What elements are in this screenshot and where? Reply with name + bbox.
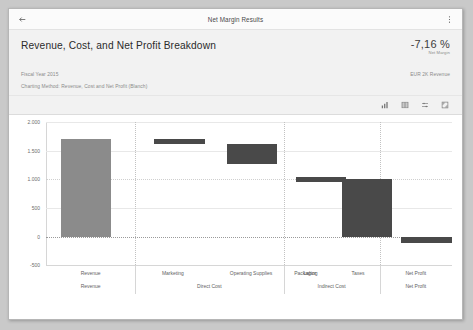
x-group-indirect-cost: Indirect Cost bbox=[284, 279, 380, 293]
y-tick-1000: 1.000 bbox=[27, 176, 40, 182]
unit-label: EUR 2K Revenue bbox=[410, 72, 450, 77]
x-label-net-profit: Net Profit bbox=[380, 266, 452, 280]
bar-taxes[interactable] bbox=[342, 179, 393, 236]
x-axis-level-2: Revenue Direct Cost Indirect Cost Net Pr… bbox=[46, 279, 452, 293]
y-tick--500: -500 bbox=[30, 262, 40, 268]
app-window: Net Margin Results Revenue, Cost, and Ne… bbox=[8, 8, 463, 320]
chart-grid bbox=[46, 122, 452, 265]
y-axis: 2.000 1.500 1.000 500 0 -500 bbox=[17, 122, 43, 265]
x-label-taxes: Taxes bbox=[336, 266, 379, 280]
x-label-marketing: Marketing bbox=[135, 266, 210, 280]
gridline-2000 bbox=[46, 122, 452, 123]
settings-icon[interactable] bbox=[420, 100, 429, 109]
chart-header: Revenue, Cost, and Net Profit Breakdown … bbox=[9, 30, 462, 96]
y-tick-2000: 2.000 bbox=[27, 119, 40, 125]
navigation-bar: Net Margin Results bbox=[9, 9, 462, 30]
group-separator-1 bbox=[135, 122, 136, 265]
x-group-direct-cost: Direct Cost bbox=[135, 279, 283, 293]
x-group-net-profit: Net Profit bbox=[380, 279, 452, 293]
fiscal-year-label: Fiscal Year 2015 bbox=[21, 72, 58, 77]
y-tick-500: 500 bbox=[32, 205, 40, 211]
bar-chart-icon[interactable] bbox=[380, 100, 389, 109]
kpi-label: Net Margin bbox=[411, 51, 450, 55]
kpi-net-margin: -7,16 % Net Margin bbox=[411, 39, 450, 55]
bar-marketing[interactable] bbox=[154, 139, 205, 144]
bar-labor[interactable] bbox=[296, 177, 347, 182]
x-axis: Revenue Marketing Operating Supplies Pac… bbox=[46, 265, 452, 294]
y-tick-0: 0 bbox=[37, 234, 40, 240]
bar-operating-supplies[interactable] bbox=[227, 144, 278, 164]
x-label-revenue: Revenue bbox=[46, 266, 135, 280]
back-arrow-icon[interactable] bbox=[15, 12, 29, 26]
page-title: Net Margin Results bbox=[9, 16, 462, 23]
chart-title: Revenue, Cost, and Net Profit Breakdown bbox=[21, 39, 216, 52]
bar-net-profit[interactable] bbox=[401, 237, 452, 244]
overflow-menu-icon[interactable] bbox=[442, 12, 456, 26]
x-label-labor: Labor bbox=[284, 266, 337, 280]
table-icon[interactable] bbox=[400, 100, 409, 109]
x-axis-level-1: Revenue Marketing Operating Supplies Pac… bbox=[46, 266, 452, 280]
group-separator-2 bbox=[284, 122, 285, 265]
chart-plot-area: 2.000 1.500 1.000 500 0 -500 bbox=[9, 115, 462, 319]
x-group-revenue: Revenue bbox=[46, 279, 135, 293]
kpi-value: -7,16 % bbox=[411, 39, 450, 50]
y-tick-1500: 1.500 bbox=[27, 148, 40, 154]
fullscreen-icon[interactable] bbox=[440, 100, 449, 109]
gridline-zero bbox=[46, 237, 452, 238]
chart-subtitles: Fiscal Year 2015 Charting Method: Revenu… bbox=[21, 62, 147, 89]
chart-toolbar bbox=[9, 96, 462, 115]
bar-revenue[interactable] bbox=[61, 139, 112, 236]
charting-method-label: Charting Method: Revenue, Cost and Net P… bbox=[21, 84, 147, 89]
